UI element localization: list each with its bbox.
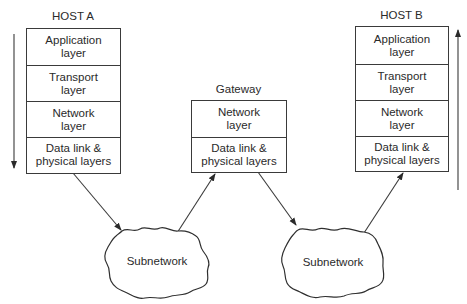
host-b-title: HOST B <box>355 9 448 21</box>
host-a-transport-layer: Transport layer <box>27 65 120 101</box>
host-b-transport-layer: Transport layer <box>356 64 448 100</box>
edge-subnet-2-to-host-b <box>364 173 403 233</box>
host-b-datalink-physical-layer: Data link & physical layers <box>356 136 448 171</box>
host-a-stack: Application layer Transport layer Networ… <box>26 28 121 174</box>
gateway-stack: Network layer Data link & physical layer… <box>191 100 287 173</box>
host-a-datalink-physical-layer: Data link & physical layers <box>27 137 120 172</box>
edge-gateway-to-subnet-2 <box>258 172 296 225</box>
edge-host-a-to-subnet-1 <box>73 173 121 230</box>
gateway-title: Gateway <box>191 83 286 95</box>
host-a-title: HOST A <box>26 10 120 22</box>
subnetwork-1-label: Subnetwork <box>110 255 204 267</box>
host-b-network-layer: Network layer <box>356 100 448 136</box>
subnetwork-2-label: Subnetwork <box>286 256 380 268</box>
host-b-stack: Application layer Transport layer Networ… <box>355 26 449 172</box>
gateway-network-layer: Network layer <box>192 101 286 137</box>
host-b-application-layer: Application layer <box>356 27 448 64</box>
protocol-diagram: HOST A Application layer Transport layer… <box>0 0 467 304</box>
edge-subnet-1-to-gateway <box>177 174 215 233</box>
gateway-datalink-physical-layer: Data link & physical layers <box>192 137 286 172</box>
host-a-application-layer: Application layer <box>27 29 120 65</box>
host-a-network-layer: Network layer <box>27 101 120 137</box>
